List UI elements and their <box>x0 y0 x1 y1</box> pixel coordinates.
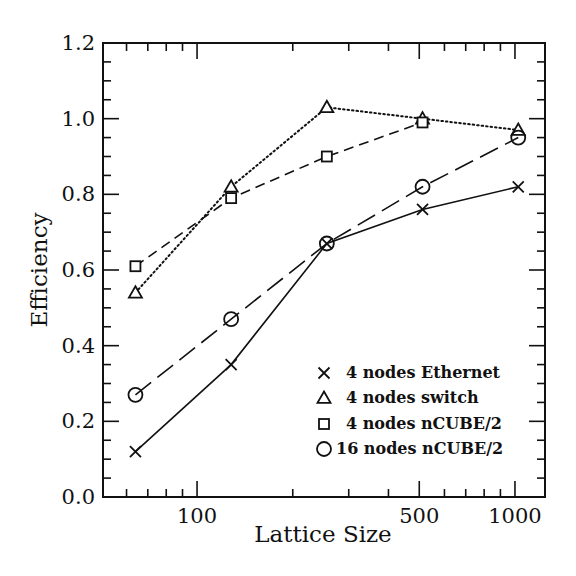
triangle-marker-icon <box>320 101 333 112</box>
y-tick-label: 0.2 <box>62 409 95 433</box>
series-markers-3 <box>128 131 525 402</box>
square-marker-icon <box>418 117 428 127</box>
y-tick-label: 1.2 <box>62 31 95 55</box>
y-tick-label: 1.0 <box>62 107 95 131</box>
series-line-0 <box>135 187 518 452</box>
triangle-legend-icon <box>318 392 331 403</box>
efficiency-chart: 1005001000 0.00.20.40.60.81.01.2 Lattice… <box>0 0 576 576</box>
x-tick-label: 1000 <box>488 504 541 528</box>
cross-legend-icon <box>319 368 330 379</box>
legend-label: 4 nodes nCUBE/2 <box>346 414 502 433</box>
y-tick-label: 0.8 <box>62 182 95 206</box>
cross-marker-icon <box>226 359 237 370</box>
cross-marker-icon <box>130 446 141 457</box>
x-axis-title: Lattice Size <box>254 521 391 547</box>
cross-marker-icon <box>513 181 524 192</box>
x-tick-label: 500 <box>399 504 439 528</box>
y-tick-label: 0.0 <box>62 485 95 509</box>
y-tick-label: 0.4 <box>62 334 95 358</box>
series-line-3 <box>135 138 518 395</box>
square-marker-icon <box>226 193 236 203</box>
legend-label: 4 nodes Ethernet <box>346 363 501 382</box>
legend: 4 nodes Ethernet4 nodes switch4 nodes nC… <box>317 363 503 458</box>
y-axis-tick-labels: 0.00.20.40.60.81.01.2 <box>62 31 95 509</box>
square-marker-icon <box>130 261 140 271</box>
cross-marker-icon <box>321 238 332 249</box>
legend-label: 16 nodes nCUBE/2 <box>336 439 503 458</box>
cross-marker-icon <box>417 204 428 215</box>
square-legend-icon <box>319 419 329 429</box>
y-axis-title: Efficiency <box>26 212 52 327</box>
square-marker-icon <box>322 152 332 162</box>
circle-legend-icon <box>317 442 331 456</box>
legend-label: 4 nodes switch <box>346 388 479 407</box>
y-tick-label: 0.6 <box>62 258 95 282</box>
x-tick-label: 100 <box>177 504 217 528</box>
